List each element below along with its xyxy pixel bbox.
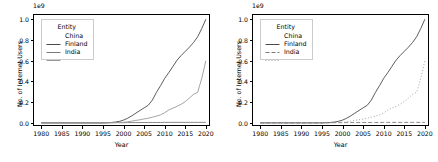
x-tick-mark [82,126,83,129]
x-tick-label: 1990 [294,130,310,137]
x-tick-label: 1980 [252,130,268,137]
y-tick-mark [250,81,253,82]
y-tick-mark [31,81,34,82]
x-tick-label: 1995 [95,130,111,137]
y-tick-mark [250,123,253,124]
legend-label: China [65,32,83,40]
y-offset-label-right: 1e9 [252,2,264,10]
y-tick-mark [31,61,34,62]
x-tick-mark [363,126,364,129]
x-tick-label: 2010 [376,130,392,137]
x-tick-mark [343,126,344,129]
x-tick-label: 2010 [157,130,173,137]
x-tick-label: 2020 [198,130,214,137]
legend-swatch-icon [46,41,61,48]
x-tick-label: 1985 [273,130,289,137]
y-tick-mark [250,102,253,103]
legend-label: China [284,32,302,40]
x-tick-mark [103,126,104,129]
x-tick-label: 2020 [417,130,433,137]
legend-item-finland[interactable]: Finland [265,40,307,48]
x-tick-mark [425,126,426,129]
legend-item-india[interactable]: India [265,48,307,56]
legend-title-right: Entity [265,23,307,31]
legend-label: Finland [284,40,307,48]
legend-swatch-icon [265,33,280,40]
x-tick-mark [384,126,385,129]
x-tick-mark [281,126,282,129]
x-tick-mark [301,126,302,129]
x-tick-label: 2015 [396,130,412,137]
legend-left: Entity ChinaFinlandIndia [41,19,94,60]
x-axis-title-left: Year [33,141,210,149]
legend-label: India [284,48,299,56]
x-tick-label: 1995 [314,130,330,137]
y-tick-mark [31,102,34,103]
y-axis-title-left: No. of Internet Users [16,24,24,124]
x-tick-mark [165,126,166,129]
series-line-india [41,61,206,123]
y-tick-mark [250,61,253,62]
y-tick-mark [31,123,34,124]
legend-rows-right: ChinaFinlandIndia [265,32,307,56]
x-tick-label: 2015 [177,130,193,137]
y-tick-mark [250,19,253,20]
legend-item-china[interactable]: China [265,32,307,40]
x-tick-mark [41,126,42,129]
legend-label: India [65,48,80,56]
x-tick-mark [260,126,261,129]
legend-right: Entity ChinaFinlandIndia [260,19,313,60]
legend-swatch-icon [46,33,61,40]
figure: 1e9 0.00.20.40.60.81.0 19801985199019952… [0,0,438,162]
y-offset-label-left: 1e9 [33,2,45,10]
legend-item-china[interactable]: China [46,32,88,40]
legend-title-left: Entity [46,23,88,31]
legend-swatch-icon [265,49,280,56]
x-tick-mark [185,126,186,129]
y-tick-mark [31,40,34,41]
legend-label: Finland [65,40,88,48]
x-tick-mark [206,126,207,129]
x-tick-label: 2005 [136,130,152,137]
legend-item-india[interactable]: India [46,48,88,56]
y-tick-label: 1.0 [19,16,29,23]
y-axis-title-right: No. of Internet Users [235,24,243,124]
x-tick-mark [404,126,405,129]
legend-swatch-icon [265,41,280,48]
series-line-india [260,61,425,123]
x-tick-mark [322,126,323,129]
x-tick-mark [62,126,63,129]
legend-swatch-icon [46,49,61,56]
x-tick-label: 2000 [335,130,351,137]
x-tick-label: 1990 [75,130,91,137]
legend-item-finland[interactable]: Finland [46,40,88,48]
x-tick-label: 2005 [355,130,371,137]
x-axis-title-right: Year [252,141,429,149]
y-tick-mark [31,19,34,20]
y-tick-mark [250,40,253,41]
x-tick-mark [124,126,125,129]
right-panel: 1e9 0.00.20.40.60.81.0 19801985199019952… [219,0,438,162]
x-tick-label: 1985 [54,130,70,137]
x-tick-mark [144,126,145,129]
x-tick-label: 2000 [116,130,132,137]
legend-rows-left: ChinaFinlandIndia [46,32,88,56]
y-tick-label: 1.0 [238,16,248,23]
x-tick-label: 1980 [33,130,49,137]
left-panel: 1e9 0.00.20.40.60.81.0 19801985199019952… [0,0,219,162]
